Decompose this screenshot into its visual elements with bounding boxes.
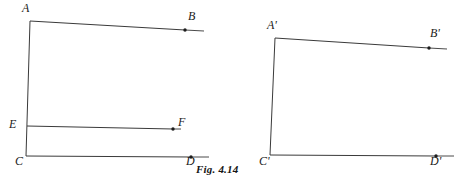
- vertex-label-E: E: [9, 118, 16, 130]
- vertex-label-B-prime: B': [430, 27, 440, 39]
- left-panel-lines: [26, 21, 209, 159]
- geometry-canvas: [0, 0, 464, 182]
- segment-A'B': [275, 38, 429, 48]
- endpoint-dot-F-dot: [171, 127, 174, 130]
- right-panel-lines: [270, 38, 454, 158]
- vertex-label-A-prime: A': [267, 19, 277, 31]
- segment-AC: [26, 21, 30, 156]
- vertex-label-F: F: [178, 116, 185, 128]
- endpoint-dot-B'-dot: [427, 46, 430, 49]
- vertex-label-B: B: [188, 10, 195, 22]
- vertex-label-A: A: [22, 2, 29, 14]
- vertex-label-D: D: [186, 155, 195, 167]
- segment-AB: [30, 21, 185, 30]
- ray-tail-B'-tail: [429, 48, 447, 49]
- vertex-label-C: C: [15, 155, 23, 167]
- segment-A'C': [270, 38, 275, 155]
- vertex-label-C-prime: C': [259, 155, 270, 167]
- ray-tail-B-tail: [185, 30, 204, 31]
- segment-C'D': [270, 155, 436, 156]
- figure-caption: Fig. 4.14: [196, 163, 238, 175]
- figure-container: ABEFCD A'B'C'D' Fig. 4.14: [0, 0, 464, 182]
- segment-EF: [27, 126, 173, 129]
- vertex-label-D-prime: D': [430, 155, 441, 167]
- segment-CD: [26, 156, 191, 157]
- endpoint-dot-B-dot: [183, 28, 186, 31]
